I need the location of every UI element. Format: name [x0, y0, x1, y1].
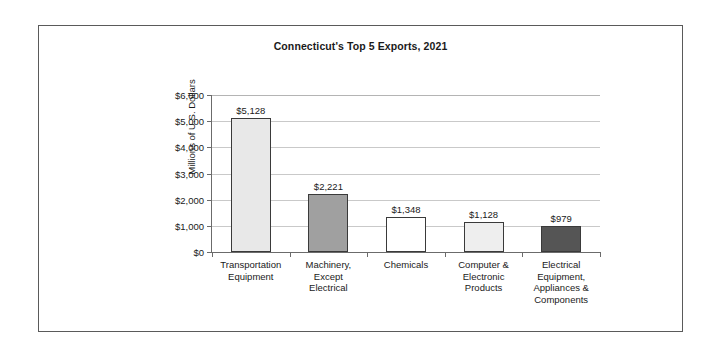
y-axis-tick-label: $6,000: [175, 90, 204, 101]
plot-area: $6,000$5,000$4,000$3,000$2,000$1,000$0 $…: [212, 95, 600, 252]
x-axis-label-line: Chemicals: [367, 259, 445, 271]
x-axis-label-line: Appliances &: [522, 282, 600, 294]
x-axis-label-line: Components: [522, 294, 600, 306]
bar: $5,128: [231, 118, 271, 252]
x-axis-label-line: Equipment,: [522, 271, 600, 283]
bar-value-label: $1,128: [469, 209, 498, 220]
y-axis-tick: [207, 226, 212, 227]
x-axis-label-line: Computer &: [445, 259, 523, 271]
bar: $979: [541, 226, 581, 252]
x-axis-tick: [367, 252, 368, 257]
x-axis-category-label: Computer &ElectronicProducts: [445, 259, 523, 294]
x-axis-category-label: ElectricalEquipment,Appliances &Componen…: [522, 259, 600, 305]
x-axis-label-line: Electronic: [445, 271, 523, 283]
x-axis-category-label: TransportationEquipment: [212, 259, 290, 282]
y-axis-tick: [207, 200, 212, 201]
x-axis-tick: [600, 252, 601, 257]
gridline: [212, 252, 600, 253]
y-axis-tick: [207, 147, 212, 148]
bar-value-label: $2,221: [314, 181, 343, 192]
bar-value-label: $5,128: [236, 105, 265, 116]
x-axis-tick: [290, 252, 291, 257]
x-axis-label-line: Electrical: [290, 282, 368, 294]
bar: $1,128: [464, 222, 504, 252]
y-axis-tick-label: $5,000: [175, 116, 204, 127]
y-axis-tick: [207, 174, 212, 175]
y-axis-tick: [207, 95, 212, 96]
x-axis-tick: [445, 252, 446, 257]
gridline: [212, 95, 600, 96]
bar: $1,348: [386, 217, 426, 252]
y-axis-tick-label: $2,000: [175, 194, 204, 205]
x-axis-tick: [522, 252, 523, 257]
bar-value-label: $979: [551, 213, 572, 224]
x-axis-category-label: Machinery,ExceptElectrical: [290, 259, 368, 294]
bar: $2,221: [308, 194, 348, 252]
x-axis-label-line: Equipment: [212, 271, 290, 283]
x-axis-tick: [212, 252, 213, 257]
chart-frame: Connecticut's Top 5 Exports, 2021 Millio…: [38, 25, 683, 332]
bar-value-label: $1,348: [391, 204, 420, 215]
x-axis-category-label: Chemicals: [367, 259, 445, 271]
y-axis-tick-label: $3,000: [175, 168, 204, 179]
y-axis-tick-label: $0: [193, 247, 204, 258]
x-axis-label-line: Products: [445, 282, 523, 294]
chart-title: Connecticut's Top 5 Exports, 2021: [39, 40, 682, 52]
y-axis-tick-label: $4,000: [175, 142, 204, 153]
x-axis-label-line: Transportation: [212, 259, 290, 271]
y-axis-tick-label: $1,000: [175, 220, 204, 231]
x-axis-label-line: Electrical: [522, 259, 600, 271]
y-axis-title: Millions of U.S. Dollars: [185, 49, 199, 206]
x-axis-label-line: Machinery,: [290, 259, 368, 271]
y-axis-tick: [207, 121, 212, 122]
x-axis-label-line: Except: [290, 271, 368, 283]
